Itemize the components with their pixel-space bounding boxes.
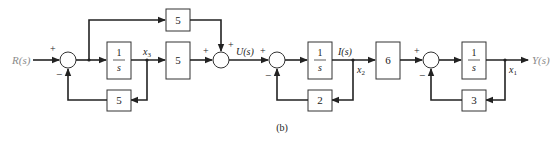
integrator1-denominator: s <box>117 62 121 73</box>
feedback-to-sum1-arrow <box>68 69 107 100</box>
x3-label: x3 <box>142 46 151 59</box>
figure-caption: (b) <box>276 122 288 134</box>
feedforward-gain-value: 5 <box>175 14 181 26</box>
output-gain-x3-value: 5 <box>175 54 181 66</box>
gain-6-value: 6 <box>385 54 391 66</box>
x2-label: x2 <box>356 64 365 77</box>
u-label: U(s) <box>236 46 254 58</box>
integrator2-numerator: 1 <box>318 47 323 58</box>
sum4-plus-sign: + <box>414 45 420 56</box>
integrator3-denominator: s <box>472 62 476 73</box>
sum4-minus-sign: − <box>419 69 425 81</box>
integrator2-denominator: s <box>318 62 322 73</box>
feedback-to-sum4-arrow <box>431 69 462 100</box>
x1-feedback-path <box>486 60 505 100</box>
summing-junction-4 <box>423 52 439 68</box>
x2-feedback-path <box>332 60 353 100</box>
integrator1-numerator: 1 <box>117 47 122 58</box>
feedback-gain-x1-value: 3 <box>471 94 477 106</box>
summing-junction-2 <box>213 52 229 68</box>
sum1-plus-sign: + <box>50 43 56 54</box>
sum2-left-plus: + <box>203 45 209 56</box>
sum2-top-plus: + <box>228 39 234 50</box>
i-label: I(s) <box>337 46 353 58</box>
input-label: R(s) <box>11 54 31 67</box>
summing-junction-3 <box>269 52 285 68</box>
sum1-minus-sign: − <box>56 68 62 80</box>
x1-label: x1 <box>508 64 517 77</box>
feedback-to-sum3-arrow <box>277 69 308 100</box>
sum3-minus-sign: − <box>265 69 271 81</box>
sum3-plus-sign: + <box>260 45 266 56</box>
x3-feedback-path <box>131 60 147 100</box>
block-diagram: R(s) + − 5 1 s x3 5 5 + + U(s) + − 1 s I… <box>0 0 558 143</box>
feedback-gain-x3-value: 5 <box>116 94 122 106</box>
summing-junction-1 <box>60 52 76 68</box>
output-label: Y(s) <box>532 54 550 67</box>
feedback-gain-x2-value: 2 <box>317 94 323 106</box>
integrator3-numerator: 1 <box>472 47 477 58</box>
